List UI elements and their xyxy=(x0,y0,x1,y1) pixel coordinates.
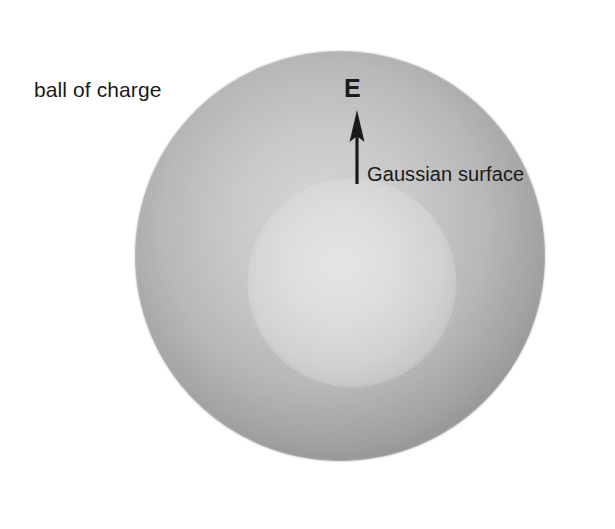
physics-diagram-figure: ball of charge E Gaussian surface xyxy=(0,0,615,529)
inner-sphere-texture xyxy=(249,180,455,386)
electric-field-label: E xyxy=(344,76,361,101)
gaussian-surface-label: Gaussian surface xyxy=(367,164,524,184)
inner-sphere-gaussian-surface xyxy=(249,180,455,386)
ball-of-charge-label: ball of charge xyxy=(34,79,161,100)
